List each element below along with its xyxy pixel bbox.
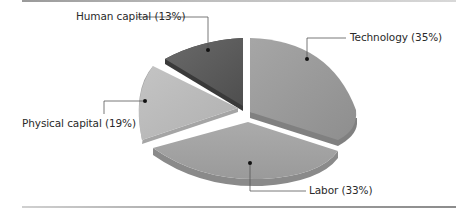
marker-labor: [248, 161, 252, 165]
marker-human-capital: [206, 48, 210, 52]
label-labor: Labor (33%): [309, 184, 372, 196]
label-human-capital: Human capital (13%): [76, 10, 185, 22]
label-physical-capital: Physical capital (19%): [22, 117, 136, 129]
bottom-rule: [22, 206, 456, 208]
label-technology: Technology (35%): [350, 31, 442, 43]
marker-physical-capital: [143, 99, 147, 103]
marker-technology: [305, 57, 309, 61]
